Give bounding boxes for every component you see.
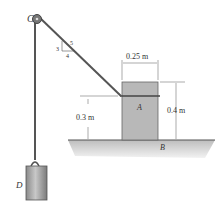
dim-height-label: 0.4 m [167,106,186,115]
dim-rope-height-label: 0.3 m [76,113,95,122]
statics-diagram: C 5 3 4 0.25 m A 0.4 m 0.3 m B D [0,0,223,219]
slope-rise: 3 [56,46,59,52]
dim-width-label: 0.25 m [126,52,149,61]
pulley-icon [33,15,42,24]
slope-run: 4 [66,53,69,59]
block-d [26,162,47,200]
label-b: B [160,143,165,152]
label-a: A [136,103,142,112]
label-c: C [27,13,34,24]
ground [68,140,215,158]
diagonal-rope [39,17,121,96]
dim-width [122,60,158,80]
label-d: D [15,180,23,190]
slope-hyp: 5 [70,40,73,46]
